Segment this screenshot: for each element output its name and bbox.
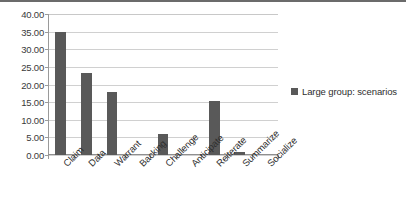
value-axis-tick-label: 40.00	[21, 9, 44, 20]
value-axis-tick-label: 5.00	[26, 132, 44, 143]
value-axis-tick-label: 0.00	[26, 150, 44, 161]
bar-slot	[125, 14, 151, 155]
bar-slot	[48, 14, 74, 155]
value-axis-tick-label: 10.00	[21, 114, 44, 125]
value-axis-tick-label: 35.00	[21, 26, 44, 37]
value-axis-tick-label: 30.00	[21, 44, 44, 55]
bar-slot	[74, 14, 100, 155]
value-axis-tick-label: 25.00	[21, 61, 44, 72]
value-axis-tick-label: 15.00	[21, 97, 44, 108]
bar	[107, 92, 118, 155]
bar-slot	[201, 14, 227, 155]
bar-slot	[150, 14, 176, 155]
category-axis-tick	[48, 155, 49, 159]
bar-slot	[99, 14, 125, 155]
plot-area: 0.005.0010.0015.0020.0025.0030.0035.0040…	[48, 14, 278, 155]
legend-entry-label: Large group: scenarios	[302, 86, 397, 97]
bar	[81, 73, 92, 155]
bar-series-large-group-scenarios	[48, 14, 278, 155]
bar-chart: 0.005.0010.0015.0020.0025.0030.0035.0040…	[0, 0, 406, 205]
bar	[55, 32, 66, 155]
value-axis-tick-label: 20.00	[21, 79, 44, 90]
chart-legend: Large group: scenarios	[291, 86, 397, 97]
legend-swatch-icon	[291, 88, 298, 95]
